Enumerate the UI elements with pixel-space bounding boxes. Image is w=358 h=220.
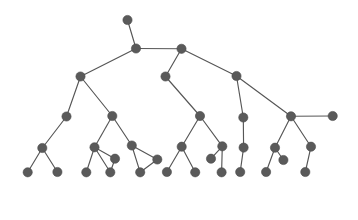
graph-edge xyxy=(81,77,113,117)
graph-node xyxy=(306,142,315,151)
node-layer xyxy=(23,15,337,177)
graph-node xyxy=(123,15,132,24)
graph-edge xyxy=(237,76,292,116)
graph-node xyxy=(23,168,32,177)
graph-node xyxy=(191,168,200,177)
graph-node xyxy=(239,113,248,122)
graph-node xyxy=(262,167,271,176)
graph-node xyxy=(53,167,62,176)
graph-node xyxy=(236,167,245,176)
graph-edge xyxy=(182,116,200,147)
graph-node xyxy=(38,143,47,152)
graph-node xyxy=(195,111,204,120)
graph-edge xyxy=(166,77,201,117)
graph-node xyxy=(136,168,145,177)
graph-edge xyxy=(182,49,237,76)
graph-node xyxy=(76,72,85,81)
graph-node xyxy=(62,112,71,121)
graph-node xyxy=(279,155,288,164)
graph-edge xyxy=(67,77,81,117)
graph-canvas xyxy=(0,0,358,220)
graph-edge xyxy=(291,116,311,146)
graph-node xyxy=(161,72,170,81)
graph-edge xyxy=(81,49,137,77)
graph-node xyxy=(301,167,310,176)
graph-node xyxy=(82,168,91,177)
graph-node xyxy=(108,111,117,120)
graph-node xyxy=(106,168,115,177)
graph-node xyxy=(127,141,136,150)
graph-node xyxy=(162,167,171,176)
graph-node xyxy=(270,143,279,152)
graph-node xyxy=(177,142,186,151)
graph-node xyxy=(131,44,140,53)
graph-node xyxy=(206,154,215,163)
graph-node xyxy=(232,71,241,80)
graph-node xyxy=(328,111,337,120)
graph-node xyxy=(153,155,162,164)
graph-node xyxy=(239,143,248,152)
graph-edge xyxy=(112,116,132,146)
graph-node xyxy=(110,154,119,163)
graph-node xyxy=(177,44,186,53)
graph-edge xyxy=(200,116,222,146)
graph-node xyxy=(217,168,226,177)
graph-edge xyxy=(42,117,66,149)
graph-edge xyxy=(275,116,291,147)
graph-node xyxy=(90,143,99,152)
tree-graph-figure xyxy=(0,0,358,220)
graph-node xyxy=(286,112,295,121)
graph-node xyxy=(218,142,227,151)
graph-edge xyxy=(237,76,244,118)
graph-edge xyxy=(95,116,113,147)
